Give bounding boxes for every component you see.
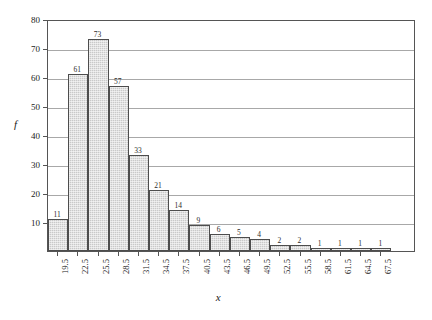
x-tick-mark [199,252,200,256]
x-tick-label: 31.5 [142,259,151,274]
x-tick-mark [77,252,78,256]
x-tick-label: 22.5 [81,259,90,274]
x-tick-mark [57,252,58,256]
histogram-bar [129,155,149,251]
x-tick-label: 61.5 [344,259,353,274]
histogram-bar [331,248,351,251]
bar-value-label: 57 [104,77,132,86]
y-tick-label: 50 [0,103,40,112]
bar-value-label: 11 [43,210,71,219]
y-axis-label: f [14,119,17,130]
histogram-bar [48,219,68,251]
x-tick-mark [360,252,361,256]
x-tick-mark [219,252,220,256]
histogram-bar [88,39,108,251]
x-tick-label: 55.5 [304,259,313,274]
histogram-figure: f 1020304050607080 19.522.525.528.531.53… [0,0,432,320]
x-tick-mark [239,252,240,256]
bar-value-label: 14 [164,201,192,210]
x-tick-label: 28.5 [122,259,131,274]
x-tick-label: 64.5 [364,259,373,274]
x-tick-label: 58.5 [324,259,333,274]
x-tick-mark [279,252,280,256]
x-tick-mark [178,252,179,256]
histogram-bar [68,74,88,251]
x-tick-mark [158,252,159,256]
bar-value-label: 9 [184,216,212,225]
y-tick-label: 60 [0,74,40,83]
bar-value-label: 21 [144,181,172,190]
histogram-bar [149,190,169,251]
x-tick-mark [340,252,341,256]
y-tick-label: 20 [0,190,40,199]
x-tick-label: 49.5 [263,259,272,274]
x-tick-label: 19.5 [61,259,70,274]
histogram-bar [311,248,331,251]
x-tick-label: 25.5 [102,259,111,274]
x-tick-mark [98,252,99,256]
bar-value-label: 33 [124,146,152,155]
y-tick-label: 10 [0,219,40,228]
histogram-bar [270,245,290,251]
bars-layer [48,21,414,251]
x-tick-label: 37.5 [182,259,191,274]
x-tick-mark [138,252,139,256]
histogram-bar [109,86,129,251]
x-tick-label: 52.5 [283,259,292,274]
bar-value-label: 61 [63,65,91,74]
y-tick-label: 80 [0,16,40,25]
x-axis-label: x [216,292,221,303]
y-tick-label: 40 [0,132,40,141]
histogram-bar [371,248,391,251]
x-tick-label: 34.5 [162,259,171,274]
x-tick-mark [118,252,119,256]
x-tick-mark [259,252,260,256]
x-tick-label: 43.5 [223,259,232,274]
x-tick-mark [380,252,381,256]
x-tick-label: 40.5 [203,259,212,274]
x-tick-mark [320,252,321,256]
y-tick-label: 70 [0,45,40,54]
x-tick-label: 46.5 [243,259,252,274]
plot-area [47,20,415,252]
bar-value-label: 1 [366,239,394,248]
histogram-bar [351,248,371,251]
bar-value-label: 73 [83,30,111,39]
y-tick-label: 30 [0,161,40,170]
x-tick-label: 67.5 [384,259,393,274]
x-tick-mark [300,252,301,256]
